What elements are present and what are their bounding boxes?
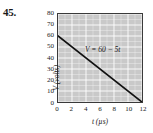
x-tick-label: 8 xyxy=(107,106,121,113)
x-tick-label: 2 xyxy=(64,106,78,113)
y-axis-title-container: V (volts) xyxy=(26,24,36,94)
figure-container: 45. V = 60 − 5t 01020304050607080 024681… xyxy=(0,0,153,133)
equation-annotation: V = 60 − 5t xyxy=(85,46,120,54)
x-tick-label: 4 xyxy=(79,106,93,113)
x-tick-label: 12 xyxy=(136,106,150,113)
y-tick-label: 50 xyxy=(40,43,54,50)
y-tick-label: 60 xyxy=(40,32,54,39)
y-axis-title: V (volts) xyxy=(53,43,61,113)
problem-number: 45. xyxy=(3,7,16,18)
x-tick-label: 10 xyxy=(122,106,136,113)
data-line xyxy=(58,14,142,102)
x-axis-tick-labels: 024681012 xyxy=(57,106,143,116)
x-tick-label: 6 xyxy=(93,106,107,113)
y-tick-label: 40 xyxy=(40,55,54,62)
plot-area: V = 60 − 5t xyxy=(57,13,143,103)
y-tick-label: 80 xyxy=(40,10,54,17)
y-tick-label: 70 xyxy=(40,21,54,28)
x-axis-title: t (µs) xyxy=(57,118,143,126)
